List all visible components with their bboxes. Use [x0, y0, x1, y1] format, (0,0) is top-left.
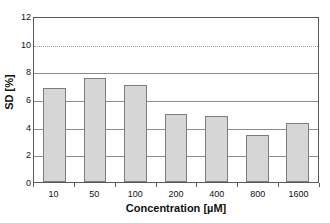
bar[interactable]	[246, 135, 269, 182]
x-tick-mark	[237, 183, 238, 187]
x-tick-label: 100	[115, 188, 156, 201]
x-axis-ticks	[33, 183, 319, 187]
y-tick-label: 4	[16, 123, 31, 132]
x-tick-mark	[156, 183, 157, 187]
x-tick-mark	[278, 183, 279, 187]
x-axis-tick-labels: 10501002004008001600	[33, 188, 319, 201]
x-tick-mark	[33, 183, 34, 187]
bar-chart-figure: SD [%] 024681012 10501002004008001600 Co…	[0, 0, 330, 223]
y-tick-label: 0	[16, 179, 31, 188]
bar[interactable]	[165, 114, 188, 182]
bar[interactable]	[286, 123, 309, 182]
y-tick-label: 2	[16, 151, 31, 160]
x-tick-mark	[196, 183, 197, 187]
x-tick-mark	[74, 183, 75, 187]
y-tick-label: 10	[16, 40, 31, 49]
bar-slot	[75, 18, 116, 182]
bar-slot	[237, 18, 278, 182]
y-axis-tick-labels: 024681012	[16, 17, 31, 183]
x-tick-label: 10	[33, 188, 74, 201]
x-tick-mark	[115, 183, 116, 187]
bars-container	[34, 18, 318, 182]
bar-slot	[34, 18, 75, 182]
plot-area	[33, 17, 319, 183]
x-tick-mark	[319, 183, 320, 187]
x-tick-label: 50	[74, 188, 115, 201]
y-tick-label: 6	[16, 96, 31, 105]
y-tick-label: 8	[16, 68, 31, 77]
bar[interactable]	[43, 88, 66, 182]
x-tick-label: 800	[237, 188, 278, 201]
x-tick-label: 400	[196, 188, 237, 201]
bar[interactable]	[124, 85, 147, 182]
bar-slot	[196, 18, 237, 182]
y-tick-label: 12	[16, 13, 31, 22]
bar-slot	[277, 18, 318, 182]
bar-slot	[115, 18, 156, 182]
x-tick-label: 200	[156, 188, 197, 201]
y-axis-title-label: SD [%]	[3, 74, 15, 109]
bar-slot	[156, 18, 197, 182]
bar[interactable]	[205, 116, 228, 182]
x-tick-label: 1600	[278, 188, 319, 201]
x-axis-title: Concentration [µM]	[33, 202, 319, 215]
bar[interactable]	[84, 78, 107, 182]
